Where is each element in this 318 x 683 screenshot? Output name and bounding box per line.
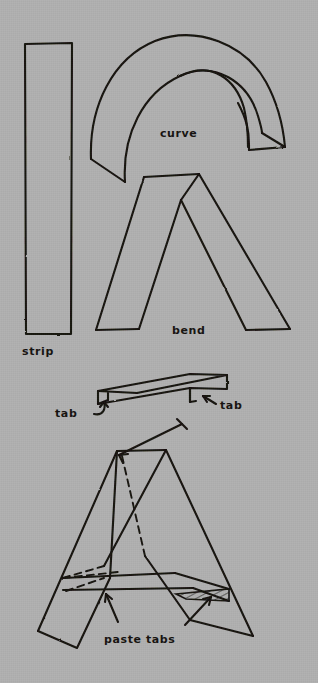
apex-pointer-arrow <box>119 419 187 463</box>
figure-assembled-a <box>38 450 253 648</box>
figure-curve <box>91 35 285 182</box>
label-paste-tabs: paste tabs <box>104 633 176 646</box>
paste-tabs-right-arrow <box>185 597 211 625</box>
hatched-paste-area <box>176 589 229 601</box>
label-tab-right: tab <box>220 399 242 412</box>
tab-right-arrow <box>203 396 216 404</box>
label-curve: curve <box>160 127 197 140</box>
paste-tabs-left-arrow <box>105 594 118 622</box>
label-bend: bend <box>172 324 205 337</box>
label-tab-left: tab <box>55 407 77 420</box>
figure-bend <box>96 174 290 330</box>
hidden-edges <box>63 456 145 591</box>
label-strip: strip <box>22 345 54 358</box>
diagram-page: strip curve bend tab tab paste tabs <box>0 0 318 683</box>
construction-drawing: strip curve bend tab tab paste tabs <box>0 0 318 683</box>
figure-strip <box>25 43 72 334</box>
